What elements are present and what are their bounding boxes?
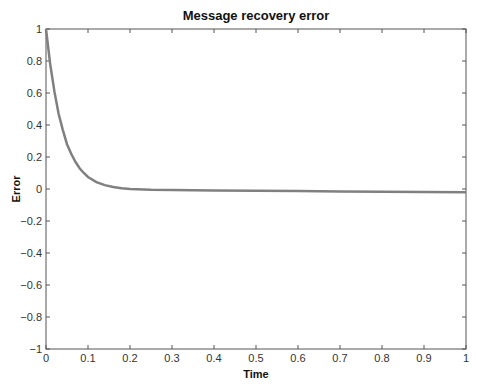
y-tick-label: −0.8 bbox=[20, 311, 42, 323]
y-axis-label: Error bbox=[10, 175, 22, 203]
y-tick-label: −0.2 bbox=[20, 215, 42, 227]
x-tick-label: 0.2 bbox=[122, 352, 137, 364]
x-axis-label: Time bbox=[243, 368, 268, 380]
y-tick-label: 0 bbox=[36, 183, 42, 195]
plot-frame bbox=[46, 29, 466, 349]
y-tick-label: 0.6 bbox=[27, 87, 42, 99]
x-tick-label: 0.8 bbox=[374, 352, 389, 364]
y-tick-label: 0.2 bbox=[27, 151, 42, 163]
x-axis: 00.10.20.30.40.50.60.70.80.91 bbox=[43, 29, 469, 364]
y-tick-label: −0.4 bbox=[20, 247, 42, 259]
y-tick-label: 1 bbox=[36, 23, 42, 35]
x-tick-label: 1 bbox=[463, 352, 469, 364]
x-tick-label: 0.3 bbox=[164, 352, 179, 364]
x-tick-label: 0.1 bbox=[80, 352, 95, 364]
y-tick-label: 0.8 bbox=[27, 55, 42, 67]
x-tick-label: 0 bbox=[43, 352, 49, 364]
y-axis: 10.80.60.40.20−0.2−0.4−0.6−0.8−1 bbox=[20, 23, 466, 355]
chart: Message recovery error 00.10.20.30.40.50… bbox=[0, 0, 479, 388]
y-tick-label: −1 bbox=[29, 343, 42, 355]
x-tick-label: 0.9 bbox=[416, 352, 431, 364]
y-tick-label: −0.6 bbox=[20, 279, 42, 291]
y-tick-label: 0.4 bbox=[27, 119, 42, 131]
x-tick-label: 0.6 bbox=[290, 352, 305, 364]
chart-title: Message recovery error bbox=[183, 8, 330, 23]
x-tick-label: 0.4 bbox=[206, 352, 221, 364]
error-line bbox=[46, 29, 466, 192]
x-tick-label: 0.5 bbox=[248, 352, 263, 364]
x-tick-label: 0.7 bbox=[332, 352, 347, 364]
